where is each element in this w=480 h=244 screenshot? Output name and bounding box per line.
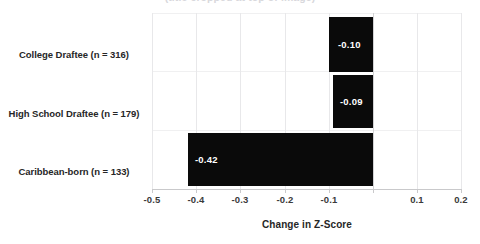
x-axis-tick-label--0.3: -0.3 [220,194,260,205]
gridline-x--0.5 [152,13,153,189]
x-axis-tick-label--0.2: -0.2 [265,194,305,205]
bar-value-label-high-school-draftee: -0.09 [340,96,363,107]
x-axis-tick-0.2 [461,189,462,193]
x-axis-tick-label--0.4: -0.4 [176,194,216,205]
gridline-x-0.1 [417,13,418,189]
gridline-x-0 [373,13,374,189]
chart-title-text: (title cropped at top of image) [95,0,385,3]
y-axis-label-high-school-draftee: High School Draftee (n = 179) [0,108,148,119]
category-separator-1 [152,71,461,72]
category-separator-top [152,13,461,14]
x-axis-tick-label--0.1: -0.1 [309,194,349,205]
x-axis-line [152,189,462,190]
x-axis-tick-0 [373,189,374,193]
gridline-x-0.2 [461,13,462,189]
bar-college-draftee: -0.10 [329,17,373,72]
x-axis-tick-label--0.5: -0.5 [132,194,172,205]
bar-high-school-draftee: -0.09 [333,75,373,128]
x-axis-tick-label-0.2: 0.2 [441,194,480,205]
x-axis-tick--0.3 [240,189,241,193]
y-axis-label-caribbean-born: Caribbean-born (n = 133) [0,166,148,177]
x-axis-title: Change in Z-Score [152,219,462,230]
y-axis-category-labels: College Draftee (n = 316) High School Dr… [0,13,148,189]
bar-caribbean-born: -0.42 [188,133,373,186]
x-axis-tick--0.5 [152,189,153,193]
x-axis-tick--0.1 [329,189,330,193]
x-axis-tick--0.4 [196,189,197,193]
x-axis-tick-0.1 [417,189,418,193]
y-axis-label-college-draftee: College Draftee (n = 316) [0,49,148,60]
chart-title-clipped: (title cropped at top of image) [95,0,385,7]
bar-value-label-caribbean-born: -0.42 [195,154,218,165]
bar-chart: (title cropped at top of image) College … [0,0,480,244]
category-separator-2 [152,130,461,131]
plot-area: -0.10 -0.09 -0.42 [152,13,461,189]
x-axis-tick--0.2 [285,189,286,193]
bar-value-label-college-draftee: -0.10 [338,39,361,50]
x-axis-tick-label-0.1: 0.1 [397,194,437,205]
